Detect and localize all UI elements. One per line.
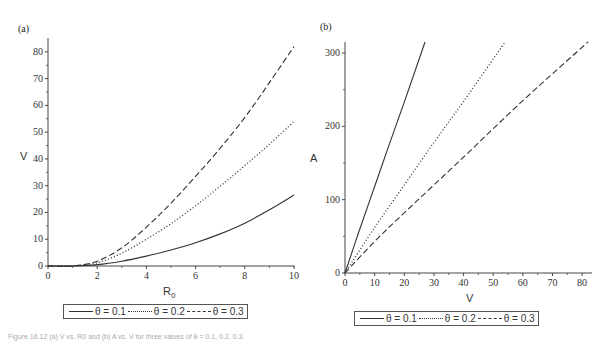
svg-text:0: 0 [335,267,340,278]
curve-solid [48,195,294,266]
svg-text:70: 70 [547,277,557,288]
legend-solid-line-icon [360,318,384,319]
legend-dotted-line-icon [419,318,443,319]
svg-text:80: 80 [33,46,43,57]
panel-a-x-ticks: 0246810 [46,266,300,281]
svg-text:60: 60 [33,99,43,110]
svg-text:70: 70 [33,73,43,84]
svg-text:40: 40 [33,153,43,164]
panel-b-x-ticks: 01020304050607080 [343,273,588,288]
curve-solid [345,42,425,273]
svg-text:10: 10 [289,270,299,281]
legend-item-3: θ = 0.3 [213,306,244,317]
svg-text:40: 40 [459,277,469,288]
panel-b-y-label: A [310,152,318,164]
svg-text:10: 10 [33,233,43,244]
svg-text:300: 300 [325,47,340,58]
svg-text:20: 20 [399,277,409,288]
curve-dotted [345,42,505,273]
panel-a-y-ticks: 01020304050607080 [33,46,48,271]
panel-a-axes [48,38,295,266]
svg-text:4: 4 [144,270,149,281]
panel-b-curves [345,42,588,273]
svg-text:50: 50 [488,277,498,288]
svg-text:60: 60 [518,277,528,288]
svg-text:8: 8 [242,270,247,281]
svg-text:0: 0 [343,277,348,288]
legend-item-3: θ = 0.3 [504,313,535,324]
panel-a-legend: θ = 0.1 θ = 0.2 θ = 0.3 [63,304,248,319]
legend-dashed-line-icon [478,318,502,319]
legend-dotted-line-icon [128,311,152,312]
legend-solid-line-icon [69,311,93,312]
svg-text:30: 30 [429,277,439,288]
svg-text:30: 30 [33,180,43,191]
svg-text:20: 20 [33,206,43,217]
curve-dashed [345,42,588,273]
legend-item-2: θ = 0.2 [154,306,185,317]
panel-a-label: (a) [18,23,29,35]
svg-text:100: 100 [325,194,340,205]
panel-b-label: (b) [320,21,332,33]
svg-text:200: 200 [325,120,340,131]
svg-text:80: 80 [577,277,587,288]
svg-text:0: 0 [38,260,43,271]
panel-b-x-label: V [466,292,474,304]
panel-a-curves [48,47,294,267]
curve-dotted [48,121,294,266]
legend-item-2: θ = 0.2 [445,313,476,324]
svg-text:50: 50 [33,126,43,137]
svg-text:6: 6 [193,270,198,281]
panel-a-x-label: R0 [163,285,176,300]
curve-dashed [48,47,294,267]
svg-text:10: 10 [370,277,380,288]
figure-canvas: (a) 01020304050607080 0246810 V R0 (b) 0… [0,0,610,345]
panel-b-y-ticks: 0100200300 [325,47,345,278]
legend-dashed-line-icon [187,311,211,312]
legend-item-1: θ = 0.1 [95,306,126,317]
legend-item-1: θ = 0.1 [386,313,417,324]
figure-caption: Figure 16.12 (a) V vs. R0 and (b) A vs. … [8,333,244,340]
svg-text:2: 2 [95,270,100,281]
panel-b-legend: θ = 0.1 θ = 0.2 θ = 0.3 [354,311,539,326]
panel-b-axes [345,42,592,273]
panel-a-y-label: V [20,150,28,162]
svg-text:0: 0 [46,270,51,281]
